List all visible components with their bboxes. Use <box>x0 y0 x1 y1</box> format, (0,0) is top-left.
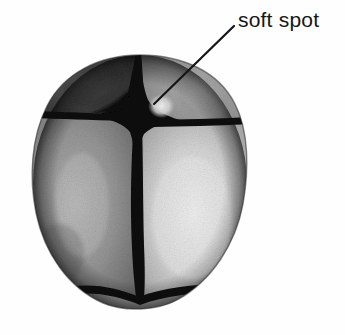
figure-container: soft spot <box>0 0 345 335</box>
skull-illustration <box>0 0 345 335</box>
